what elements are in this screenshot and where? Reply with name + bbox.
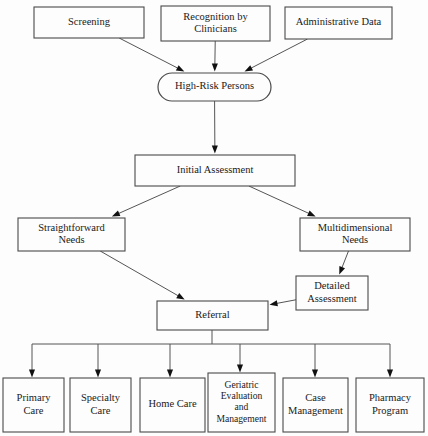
bus-drop-home_care: [167, 344, 173, 378]
flowchart-canvas: ScreeningRecognition byCliniciansAdminis…: [0, 0, 428, 436]
edge-line: [277, 300, 296, 304]
edge-recognition-to-high_risk: [212, 41, 218, 72]
edge-line: [251, 39, 307, 68]
edge-admin_data-to-high_risk: [245, 39, 308, 72]
bus-drop-specialty_care: [95, 344, 101, 378]
node-label: Multidimensional: [318, 222, 393, 233]
arrowhead: [307, 210, 316, 216]
node-label: Referral: [195, 309, 229, 320]
bus-drop-pharmacy: [387, 344, 393, 378]
edge-high_risk-to-initial_assessment: [212, 101, 218, 154]
node-label: Care: [91, 405, 111, 416]
arrowhead: [29, 370, 35, 378]
node-multidimensional[interactable]: MultidimensionalNeeds: [300, 218, 410, 251]
node-label: Management: [216, 413, 266, 424]
node-label: Specialty: [81, 392, 121, 403]
bus-drop-geriatric: [237, 344, 243, 373]
node-layer: ScreeningRecognition byCliniciansAdminis…: [3, 6, 424, 432]
edge-detailed_assessment-to-referral: [270, 300, 297, 307]
node-initial_assessment[interactable]: Initial Assessment: [135, 155, 295, 186]
bus-drop-primary_care: [29, 344, 35, 378]
arrowhead: [245, 65, 254, 71]
bus-drop-case_management: [312, 344, 318, 378]
edge-initial_assessment-to-multidimensional: [249, 186, 316, 217]
arrowhead: [112, 210, 121, 216]
node-primary_care[interactable]: PrimaryCare: [3, 378, 64, 432]
node-high_risk[interactable]: High-Risk Persons: [158, 73, 271, 101]
arrowhead: [95, 370, 101, 378]
edge-multidimensional-to-detailed_assessment: [339, 251, 348, 275]
flowchart-diagram: ScreeningRecognition byCliniciansAdminis…: [0, 0, 428, 436]
arrowhead: [387, 370, 393, 378]
node-specialty_care[interactable]: SpecialtyCare: [70, 378, 131, 432]
node-label: Program: [372, 405, 408, 416]
node-screening[interactable]: Screening: [34, 7, 144, 38]
edge-initial_assessment-to-straightforward: [112, 186, 180, 217]
arrowhead: [270, 300, 278, 306]
edge-line: [342, 251, 348, 268]
node-label: Recognition by: [183, 11, 248, 22]
node-label: Needs: [342, 234, 368, 245]
node-label: Administrative Data: [296, 16, 382, 27]
node-label: Management: [288, 405, 343, 416]
node-recognition[interactable]: Recognition byClinicians: [161, 6, 270, 41]
referral-fanout-bus: [29, 330, 393, 378]
node-detailed_assessment[interactable]: DetailedAssessment: [296, 276, 368, 310]
arrowhead: [312, 370, 318, 378]
node-label: Pharmacy: [369, 392, 412, 403]
node-referral[interactable]: Referral: [157, 301, 268, 330]
edge-line: [249, 186, 309, 213]
edge-straightforward-to-referral: [100, 251, 184, 300]
edge-line: [119, 38, 178, 68]
node-label: Care: [24, 405, 44, 416]
arrowhead: [212, 63, 218, 71]
node-straightforward[interactable]: StraightforwardNeeds: [18, 218, 125, 251]
node-case_management[interactable]: CaseManagement: [283, 378, 348, 432]
arrowhead: [176, 65, 185, 71]
node-label: Home Care: [148, 398, 196, 409]
node-label: Assessment: [307, 293, 357, 304]
edge-line: [100, 251, 178, 296]
arrowhead: [339, 266, 345, 275]
arrowhead: [176, 293, 184, 300]
node-label: High-Risk Persons: [175, 80, 254, 91]
node-label: Geriatric: [224, 379, 258, 390]
node-label: Straightforward: [38, 222, 105, 233]
edge-screening-to-high_risk: [119, 38, 184, 72]
edge-line: [119, 186, 181, 213]
arrowhead: [237, 365, 243, 373]
node-geriatric[interactable]: GeriatricEvaluationandManagement: [208, 373, 275, 432]
node-label: Initial Assessment: [177, 164, 254, 175]
node-label: and: [235, 401, 249, 412]
node-label: Clinicians: [194, 23, 237, 34]
node-home_care[interactable]: Home Care: [140, 378, 205, 432]
node-label: Detailed: [314, 280, 350, 291]
node-label: Needs: [58, 234, 84, 245]
node-label: Primary: [17, 392, 52, 403]
node-label: Screening: [68, 16, 111, 27]
arrowhead: [167, 370, 173, 378]
node-pharmacy[interactable]: PharmacyProgram: [356, 378, 424, 432]
node-admin_data[interactable]: Administrative Data: [285, 7, 392, 39]
node-label: Case: [305, 392, 326, 403]
node-label: Evaluation: [221, 390, 263, 401]
arrowhead: [212, 145, 218, 153]
